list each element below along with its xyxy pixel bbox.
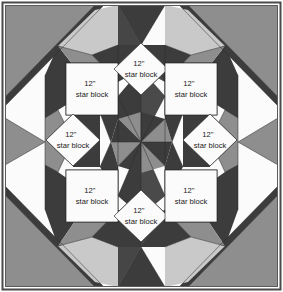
quilt-block-layout-diagram: 12" star block 12" star block: [0, 0, 283, 292]
quilt-diagram-canvas: 12" star block 12" star block: [0, 0, 283, 292]
quilt-artwork: 12" star block 12" star block: [5, 5, 278, 287]
